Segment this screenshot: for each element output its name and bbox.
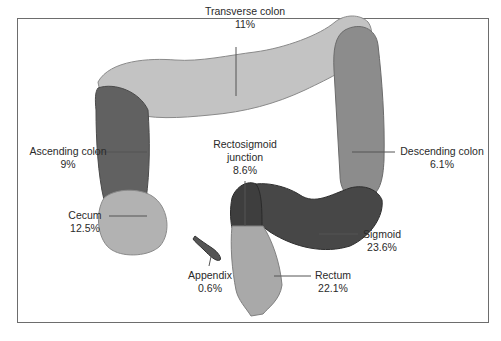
label-name: Ascending colon (28, 145, 108, 158)
descending-colon-shape (334, 26, 384, 200)
label-name: Appendix (183, 269, 237, 282)
label-name-line1: Rectosigmoid (205, 138, 285, 151)
appendix-shape (193, 236, 221, 260)
label-ascending-colon: Ascending colon 9% (28, 145, 108, 171)
label-percent: 11% (195, 18, 295, 31)
label-percent: 8.6% (205, 164, 285, 177)
label-name: Cecum (60, 209, 110, 222)
label-sigmoid: Sigmoid 23.6% (352, 228, 412, 254)
label-name-line2: junction (205, 151, 285, 164)
label-rectosigmoid-junction: Rectosigmoid junction 8.6% (205, 138, 285, 177)
rectosigmoid-shape (231, 183, 263, 228)
label-percent: 22.1% (308, 282, 358, 295)
label-rectum: Rectum 22.1% (308, 269, 358, 295)
label-percent: 12.5% (60, 222, 110, 235)
label-name: Transverse colon (195, 5, 295, 18)
label-percent: 6.1% (397, 158, 487, 171)
label-name: Rectum (308, 269, 358, 282)
label-cecum: Cecum 12.5% (60, 209, 110, 235)
label-name: Descending colon (397, 145, 487, 158)
label-percent: 0.6% (183, 282, 237, 295)
label-name: Sigmoid (352, 228, 412, 241)
label-percent: 9% (28, 158, 108, 171)
label-appendix: Appendix 0.6% (183, 269, 237, 295)
rectum-shape (231, 226, 282, 316)
label-transverse-colon: Transverse colon 11% (195, 5, 295, 31)
label-descending-colon: Descending colon 6.1% (397, 145, 487, 171)
label-percent: 23.6% (352, 241, 412, 254)
